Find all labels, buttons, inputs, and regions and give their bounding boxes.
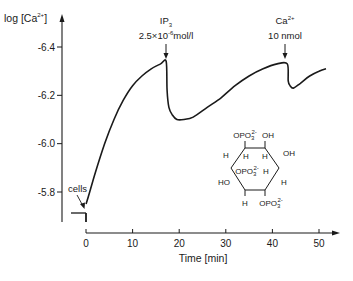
x-tick-label: 30 <box>220 238 232 249</box>
x-axis: 01020304050 <box>83 229 340 249</box>
y-tick-label: -6.0 <box>38 138 56 149</box>
svg-text:H: H <box>242 199 248 208</box>
x-axis-arrow-icon <box>332 231 340 236</box>
svg-text:OH: OH <box>262 131 274 140</box>
svg-text:OPO32-: OPO32- <box>233 129 256 141</box>
y-axis-label: log [Ca2+] <box>4 12 47 24</box>
data-line <box>86 60 326 204</box>
chart-svg: -6.4-6.2-6.0-5.8 log [Ca2+] 01020304050 … <box>0 0 353 281</box>
svg-text:H: H <box>281 178 287 187</box>
cells-annotation: cells <box>68 183 87 222</box>
ca-annotation: Ca2+ 10 nmol <box>268 15 302 59</box>
ip3-label: IP3 <box>160 15 173 28</box>
svg-text:OH: OH <box>283 149 295 158</box>
x-axis-label: Time [min] <box>179 252 228 264</box>
x-tick-label: 20 <box>174 238 186 249</box>
x-tick-label: 0 <box>83 238 89 249</box>
y-axis-arrow-icon <box>60 14 65 22</box>
ca-label: Ca2+ <box>276 15 295 26</box>
ip3-annotation: IP3 2.5×10-6mol/l <box>139 15 194 59</box>
ip3-structure-labels: OPO32- OH H H H HO OH H OPO32- H H OPO32… <box>218 129 295 209</box>
ca-dose: 10 nmol <box>268 30 302 41</box>
x-tick-label: 40 <box>267 238 279 249</box>
cells-label: cells <box>68 183 87 194</box>
svg-text:H: H <box>263 167 269 176</box>
svg-text:OPO32-: OPO32- <box>235 165 258 177</box>
svg-text:H: H <box>243 152 249 161</box>
svg-text:HO: HO <box>218 178 230 187</box>
svg-text:H: H <box>223 151 229 160</box>
svg-text:H: H <box>262 152 268 161</box>
ip3-dose: 2.5×10-6mol/l <box>139 30 194 41</box>
y-tick-label: -5.8 <box>38 187 56 198</box>
svg-text:OPO32-: OPO32- <box>259 197 282 209</box>
y-tick-label: -6.2 <box>38 90 56 101</box>
x-tick-label: 50 <box>313 238 325 249</box>
y-tick-label: -6.4 <box>38 42 56 53</box>
y-axis: -6.4-6.2-6.0-5.8 <box>38 14 65 222</box>
x-tick-label: 10 <box>127 238 139 249</box>
